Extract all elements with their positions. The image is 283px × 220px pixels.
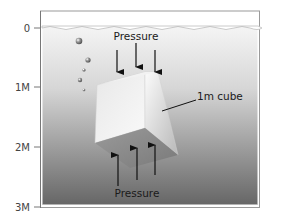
tick-label-1m: 1M <box>15 82 30 93</box>
pressure-diagram: 0 1M 2M 3M Pressure Pressure 1m cube <box>0 0 283 220</box>
tick-label-3m: 3M <box>15 202 30 213</box>
pressure-label-bottom: Pressure <box>115 187 160 199</box>
depth-axis: 0 1M 2M 3M <box>15 11 41 213</box>
cube-label: 1m cube <box>197 90 243 102</box>
pressure-label-top: Pressure <box>114 30 159 42</box>
tick-label-0: 0 <box>24 23 30 34</box>
tick-label-2m: 2M <box>15 142 30 153</box>
